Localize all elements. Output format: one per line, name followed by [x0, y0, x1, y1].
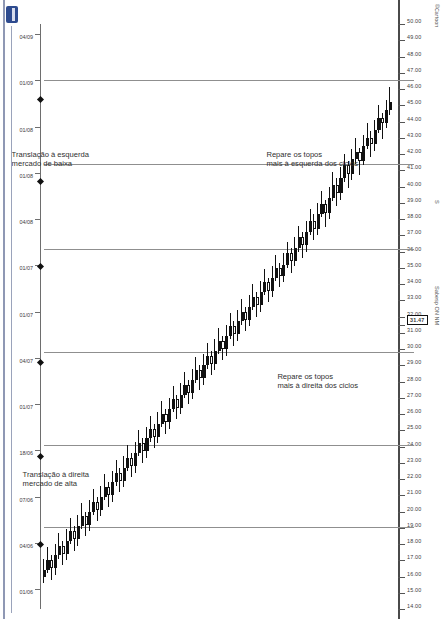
- top-left-note: Repare os topos mais à esquerda dos cicl…: [266, 150, 358, 169]
- candle: [77, 515, 80, 546]
- tick-label: 21.00: [407, 489, 422, 495]
- candle: [107, 482, 110, 506]
- tick-label: 47.00: [407, 67, 422, 73]
- tick-label: 14.00: [407, 603, 422, 609]
- candle-body: [107, 487, 110, 495]
- candle-body: [389, 102, 392, 110]
- tick-label: 34.00: [407, 278, 422, 284]
- candle-body: [77, 526, 80, 539]
- candle-body: [263, 282, 266, 292]
- candle: [339, 167, 342, 200]
- candle: [229, 313, 232, 339]
- date-label: 01/07: [20, 404, 34, 410]
- cycle-marker-icon: [37, 96, 44, 103]
- candle: [191, 369, 194, 400]
- tick-mark: [398, 252, 405, 253]
- candle: [176, 395, 179, 419]
- candle-body: [324, 204, 327, 212]
- candle-body: [229, 326, 232, 336]
- tick-label: 18.00: [407, 538, 422, 544]
- candle: [320, 191, 323, 217]
- candle-body: [130, 458, 133, 466]
- candle-body: [123, 468, 126, 481]
- candle: [145, 427, 148, 458]
- candle: [134, 442, 137, 473]
- candle: [237, 310, 240, 341]
- candle: [317, 203, 320, 236]
- tick-mark: [398, 349, 405, 350]
- date-label: 04/09: [20, 34, 34, 40]
- candle: [199, 365, 202, 389]
- candle: [115, 460, 118, 486]
- candle-body: [145, 438, 148, 451]
- footer-divider: [11, 26, 12, 613]
- tick-mark: [398, 414, 405, 415]
- candle-body: [294, 248, 297, 261]
- tick-label: 48.00: [407, 51, 422, 57]
- left-translation-note: Translação à esquerda mercado de baixa: [12, 150, 89, 169]
- candle-body: [54, 555, 57, 568]
- candle: [43, 559, 46, 583]
- candle-body: [126, 458, 129, 468]
- candle: [222, 336, 225, 360]
- candle-body: [328, 198, 331, 213]
- tick-label: 38.00: [407, 213, 422, 219]
- candle: [62, 541, 65, 565]
- candle-body: [210, 356, 213, 364]
- candle-body: [301, 237, 304, 245]
- candle-body: [81, 516, 84, 526]
- tick-mark: [398, 365, 405, 366]
- tick-mark: [398, 138, 405, 139]
- candle-body: [286, 253, 289, 264]
- tick-mark: [398, 463, 405, 464]
- candle-body: [168, 409, 171, 422]
- tick-mark: [398, 235, 405, 236]
- candle: [168, 398, 171, 429]
- tick-mark: [35, 450, 40, 451]
- candle-body: [134, 453, 137, 466]
- tick-mark: [398, 73, 405, 74]
- candle-body: [377, 118, 380, 129]
- date-label: 04/08: [20, 219, 34, 225]
- candle-body: [138, 443, 141, 453]
- candle: [172, 386, 175, 412]
- candle-body: [149, 429, 152, 439]
- candle: [370, 131, 373, 157]
- candle-body: [176, 399, 179, 407]
- tick-label: 35.00: [407, 262, 422, 268]
- candle-body: [85, 516, 88, 524]
- candle-body: [222, 341, 225, 349]
- candle: [252, 284, 255, 310]
- right-translation-note: Translação à direita mercado de alta: [23, 470, 89, 489]
- date-label: 01/07: [20, 312, 34, 318]
- candle-body: [115, 473, 118, 483]
- candle: [328, 187, 331, 220]
- candle: [282, 253, 285, 282]
- candle: [305, 221, 308, 252]
- tick-label: 30.00: [407, 343, 422, 349]
- tick-label: 26.00: [407, 408, 422, 414]
- candle: [123, 456, 126, 487]
- candle: [85, 512, 88, 536]
- candle: [130, 453, 133, 477]
- tick-label: 17.00: [407, 554, 422, 560]
- tick-mark: [398, 479, 405, 480]
- tick-label: 22.00: [407, 473, 422, 479]
- tick-mark: [398, 544, 405, 545]
- broker-logo-icon: [6, 6, 18, 23]
- candle-body: [241, 312, 244, 322]
- candle: [195, 357, 198, 383]
- date-label: 01/07: [20, 265, 34, 271]
- candle: [47, 547, 50, 573]
- candle-body: [47, 560, 50, 570]
- candle-body: [172, 399, 175, 409]
- date-label: 01/08: [20, 127, 34, 133]
- candle: [157, 412, 160, 443]
- candle: [286, 242, 289, 268]
- tick-mark: [398, 317, 405, 318]
- candle: [233, 321, 236, 345]
- date-label: 04/06: [20, 543, 34, 549]
- tick-mark: [398, 170, 405, 171]
- date-label: 18/06: [20, 450, 34, 456]
- candle-body: [43, 570, 46, 577]
